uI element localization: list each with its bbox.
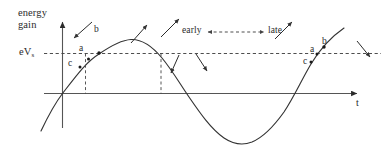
direction-arrow-descend-right-down (196, 54, 207, 71)
point-marker-left-c (79, 66, 82, 69)
direction-arrow-descend-down (171, 55, 179, 73)
energy-gain-vs-time-figure: late dashed double arrow --> energy gain… (0, 0, 381, 168)
y-axis-title-line2: gain (18, 19, 36, 31)
threshold-level-label-main: eV (19, 46, 31, 57)
early-label: early (182, 25, 202, 36)
point-marker-right-a (316, 53, 319, 56)
point-label-left-b: b (94, 24, 99, 35)
point-label-right-c: c (303, 56, 307, 67)
energy-gain-curve (41, 28, 344, 144)
point-label-left-c: c (68, 58, 72, 69)
point-label-left-a: a (79, 43, 83, 54)
late-label: late (268, 25, 282, 36)
threshold-level-label-sub: s (31, 51, 34, 59)
point-marker-right-c (310, 61, 313, 64)
threshold-level-label: eVs (19, 46, 34, 60)
direction-arrow-crest-right-up (161, 19, 179, 37)
direction-arrow-far-right-down (357, 41, 370, 57)
x-axis-label: t (356, 97, 359, 108)
point-label-right-a: a (310, 44, 314, 55)
direction-arrow-left-down (74, 22, 92, 38)
point-marker-left-b (97, 51, 100, 54)
point-label-right-b: b (322, 36, 327, 47)
point-marker-left-a (87, 58, 90, 61)
y-axis-title-line1: energy (18, 7, 47, 19)
